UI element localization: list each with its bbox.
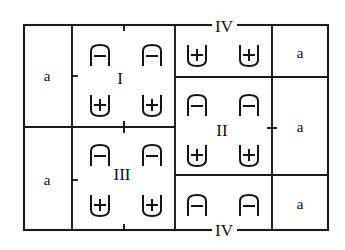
- charge-I-br: [143, 95, 161, 116]
- region-IV-top-label: IV: [215, 17, 234, 36]
- charge-I-tl: [91, 45, 109, 66]
- charge-IVbot-l: [188, 195, 206, 216]
- region-II-label: II: [216, 121, 228, 140]
- medium-left-lower: a: [44, 172, 51, 188]
- region-I-label: I: [117, 69, 123, 88]
- charge-II-tr: [240, 95, 258, 116]
- medium-right-middle: a: [297, 119, 304, 135]
- diagram-root: a a a a a I II III IV IV: [0, 0, 345, 250]
- charge-III-tr: [143, 145, 161, 166]
- charge-III-tl: [91, 145, 109, 166]
- charge-II-bl: [188, 145, 206, 166]
- medium-right-upper: a: [297, 45, 304, 61]
- charge-II-br: [240, 145, 258, 166]
- medium-left-upper: a: [44, 68, 51, 84]
- charge-I-tr: [143, 45, 161, 66]
- medium-right-lower: a: [297, 196, 304, 212]
- region-diagram-svg: a a a a a I II III IV IV: [0, 0, 345, 250]
- charge-IVtop-r: [240, 45, 258, 66]
- charge-IVtop-l: [188, 45, 206, 66]
- region-IV-bottom-label: IV: [215, 221, 234, 240]
- charge-I-bl: [91, 95, 109, 116]
- charge-IVbot-r: [240, 195, 258, 216]
- charge-III-br: [143, 195, 161, 216]
- charge-II-tl: [188, 95, 206, 116]
- region-III-label: III: [114, 165, 131, 184]
- charge-III-bl: [91, 195, 109, 216]
